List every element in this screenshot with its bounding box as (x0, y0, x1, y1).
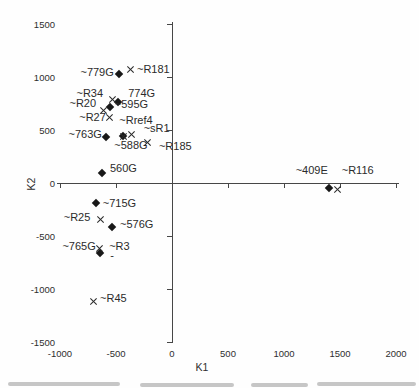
clipped-caption-fragment (8, 382, 120, 386)
y-tick-label: -1000 (15, 284, 55, 295)
diamond-marker (102, 133, 110, 141)
point-label: ~765G (62, 240, 95, 252)
x-marker (96, 215, 105, 224)
y-tick-label: 0 (15, 178, 55, 189)
x-marker (143, 138, 152, 147)
y-axis-tick (167, 236, 172, 237)
x-marker (127, 130, 136, 139)
y-axis-tick (167, 77, 172, 78)
y-tick-label: 1500 (15, 19, 55, 30)
point-label: 560G (110, 162, 137, 174)
clipped-caption-fragment (251, 383, 308, 387)
plot-area: K1 K2 -1000-5000500100015002000150010005… (0, 0, 419, 388)
x-tick-label: -500 (96, 348, 136, 359)
point-label: ~R25 (64, 211, 91, 223)
x-marker (108, 95, 117, 104)
x-axis-tick (60, 183, 61, 188)
x-tick-label: 1500 (320, 348, 360, 359)
point-label: ~576G (120, 218, 153, 230)
x-tick-label: 1000 (264, 348, 304, 359)
x-axis-tick (116, 183, 117, 188)
x-marker (126, 65, 135, 74)
clipped-caption-fragment (140, 383, 234, 387)
x-marker (89, 297, 98, 306)
y-tick-label: 500 (15, 125, 55, 136)
y-axis-tick (167, 183, 172, 184)
point-label: ~R27 (79, 111, 106, 123)
y-axis-tick (167, 24, 172, 25)
diamond-marker (98, 169, 106, 177)
x-axis-tick (284, 183, 285, 188)
x-tick-label: 500 (208, 348, 248, 359)
point-label: ~409E (296, 164, 328, 176)
clipped-caption-fragment (317, 382, 416, 386)
x-axis-tick (172, 183, 173, 188)
point-label: ~R181 (137, 63, 170, 75)
point-label: ~R116 (342, 164, 374, 176)
x-tick-label: 0 (152, 348, 192, 359)
scatter-chart-figure: K1 K2 -1000-5000500100015002000150010005… (0, 0, 419, 388)
point-label: ~R20 (70, 97, 97, 109)
x-marker (95, 244, 104, 253)
y-tick-label: -500 (15, 231, 55, 242)
stray-label: - (110, 249, 114, 261)
diamond-marker (325, 184, 333, 192)
diamond-marker (108, 223, 116, 231)
y-axis-tick (167, 342, 172, 343)
point-label: ~sR1 (144, 122, 170, 134)
x-tick-label: 2000 (376, 348, 416, 359)
x-marker (105, 113, 114, 122)
x-tick-label: -1000 (40, 348, 80, 359)
point-label: ~715G (103, 197, 136, 209)
point-label: ~763G (69, 128, 102, 140)
point-label: ~R45 (100, 292, 127, 304)
diamond-marker (115, 70, 123, 78)
x-axis-tick (228, 183, 229, 188)
x-axis-tick (396, 183, 397, 188)
y-axis-tick (167, 289, 172, 290)
point-label: ~595G (115, 98, 148, 110)
y-tick-label: -1500 (15, 337, 55, 348)
point-label: ~R185 (159, 140, 192, 152)
diamond-marker (92, 199, 100, 207)
y-tick-label: 1000 (15, 72, 55, 83)
x-marker (333, 185, 342, 194)
x-axis-title: K1 (188, 361, 216, 373)
point-label: ~779G (80, 66, 113, 78)
